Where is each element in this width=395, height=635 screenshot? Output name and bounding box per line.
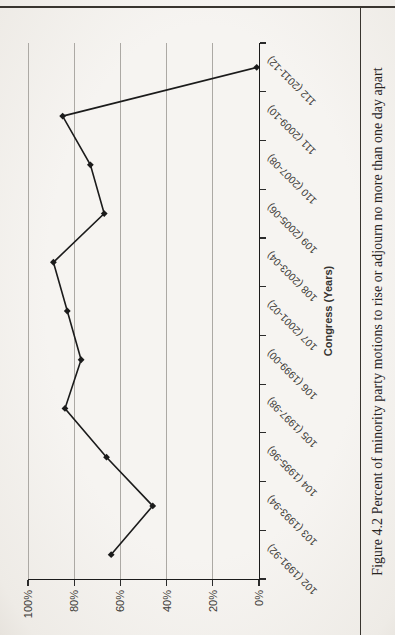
x-tick-2 [260, 481, 266, 482]
x-tick-label: 108 (2003-04) [264, 249, 351, 336]
series-line [53, 67, 256, 554]
y-tick-label: 0% [252, 590, 266, 635]
x-tick-7 [260, 237, 266, 238]
data-point-marker-106 [78, 356, 85, 363]
data-point-marker-111 [59, 113, 66, 120]
y-tick-0 [258, 580, 259, 586]
x-tick-label: 102 (1991-92) [264, 541, 351, 628]
y-tick-60 [120, 580, 121, 586]
x-tick-4 [260, 384, 266, 385]
y-tick-40 [166, 580, 167, 586]
x-tick-label: 112 (2011-12) [264, 54, 351, 141]
y-tick-label: 80% [67, 590, 81, 635]
y-tick-label: 60% [113, 590, 127, 635]
figure-page: 100%80%60%40%20%0% 102 (1991-92)103 (199… [0, 0, 395, 635]
line-chart: 100%80%60%40%20%0% 102 (1991-92)103 (199… [0, 8, 361, 635]
x-tick-3 [260, 432, 266, 433]
x-tick-11 [260, 42, 266, 43]
x-tick-8 [260, 189, 266, 190]
x-tick-9 [260, 140, 266, 141]
x-tick-5 [260, 335, 266, 336]
rotated-chart-canvas: 100%80%60%40%20%0% 102 (1991-92)103 (199… [0, 0, 395, 635]
x-tick-1 [260, 530, 266, 531]
data-point-marker-107 [64, 308, 71, 315]
y-tick-80 [74, 580, 75, 586]
y-tick-20 [212, 580, 213, 586]
figure-caption-text: Figure 4.2 Percent of minority party mot… [370, 67, 386, 575]
x-axis-title: Congress (Years) [322, 43, 334, 579]
x-axis-line [259, 43, 260, 580]
figure-caption: Figure 4.2 Percent of minority party mot… [361, 8, 394, 635]
x-tick-label: 105 (1997-98) [264, 395, 351, 482]
x-tick-label: 104 (1995-96) [264, 444, 351, 531]
y-tick-label: 100% [21, 590, 35, 635]
x-tick-label: 111 (2009-10) [264, 103, 351, 190]
y-tick-100 [27, 580, 28, 586]
x-tick-0 [260, 578, 266, 579]
y-tick-label: 20% [206, 590, 220, 635]
data-point-marker-110 [87, 161, 94, 168]
x-tick-label: 106 (1999-00) [264, 347, 351, 434]
x-tick-10 [260, 91, 266, 92]
y-axis-line [28, 579, 260, 580]
data-series [28, 43, 259, 579]
y-tick-label: 40% [160, 590, 174, 635]
x-tick-label: 109 (2005-06) [264, 200, 351, 287]
figure-frame: 100%80%60%40%20%0% 102 (1991-92)103 (199… [0, 6, 395, 635]
x-tick-label: 110 (2007-08) [264, 152, 351, 239]
x-tick-label: 103 (1993-94) [264, 493, 351, 580]
x-tick-6 [260, 286, 266, 287]
x-tick-label: 107 (2001-02) [264, 298, 351, 385]
